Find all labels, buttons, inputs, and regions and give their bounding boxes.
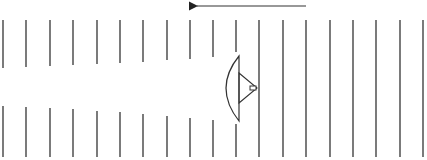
source-rect: [250, 86, 256, 90]
lens-shape: [226, 56, 239, 121]
source-icon: [239, 73, 257, 103]
wave-diagram: [0, 0, 427, 160]
right-wavefronts: [259, 20, 423, 157]
left-wavefronts: [3, 20, 213, 157]
lens-outline: [226, 56, 239, 121]
